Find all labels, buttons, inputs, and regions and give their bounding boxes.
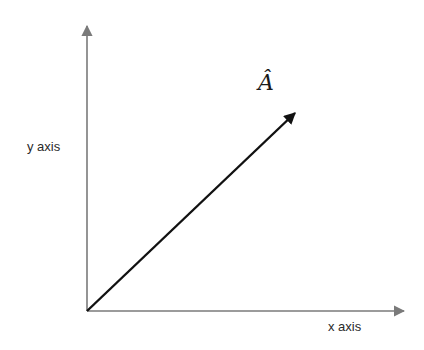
vector-diagram: y axis x axis Â <box>0 0 424 350</box>
y-axis-label: y axis <box>27 139 60 154</box>
vector-a-arrow <box>87 113 295 311</box>
x-axis-label: x axis <box>328 319 361 334</box>
diagram-canvas <box>0 0 424 350</box>
vector-a-hat-label: Â <box>258 72 274 94</box>
